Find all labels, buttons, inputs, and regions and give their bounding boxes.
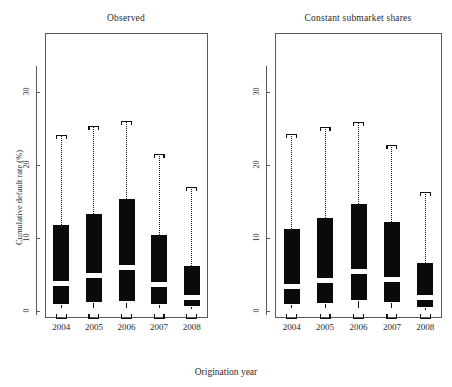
y-tick-label-0-3: 30 [22,85,31,99]
median-0-1 [86,273,102,278]
y-tick-label-0-0: 0 [22,304,31,318]
whisker-cap-upper-leg-0-0-1 [66,135,67,139]
median-1-0 [284,284,300,289]
whisker-cap-upper-leg-1-3-0 [386,145,387,149]
whisker-cap-upper-leg-1-2-1 [363,122,364,126]
whisker-lower-0-0 [61,305,62,308]
median-0-0 [53,281,69,286]
x-tick-label-1-3: 2007 [376,322,408,332]
y-tick-mark-0-1 [36,238,40,239]
whisker-cap-lower-leg-0-3-0 [154,314,155,319]
whisker-cap-upper-leg-1-0-0 [286,134,287,138]
x-tick-label-1-2: 2006 [343,322,375,332]
y-tick-label-1-1: 10 [252,231,261,245]
x-tick-label-0-3: 2007 [143,322,175,332]
whisker-cap-upper-leg-0-4-1 [196,187,197,191]
median-1-1 [317,278,333,283]
y-tick-mark-1-1 [266,238,270,239]
whisker-cap-lower-leg-0-0-1 [66,314,67,319]
x-tick-label-0-1: 2005 [78,322,110,332]
box-0-3 [151,235,167,304]
whisker-cap-lower-leg-0-2-0 [121,314,122,319]
x-tick-label-1-4: 2008 [409,322,441,332]
median-0-3 [151,282,167,287]
whisker-upper-0-4 [191,187,192,267]
whisker-cap-upper-leg-1-0-1 [296,134,297,138]
whisker-cap-lower-leg-1-2-1 [363,314,364,319]
whisker-upper-0-2 [126,121,127,199]
whisker-cap-lower-leg-0-1-1 [98,314,99,319]
whisker-cap-upper-leg-0-1-0 [88,126,89,130]
whisker-cap-lower-leg-1-4-0 [420,314,421,319]
whisker-lower-1-1 [325,304,326,308]
whisker-cap-upper-leg-1-1-0 [320,127,321,131]
x-axis-title: Origination year [166,367,286,377]
y-tick-mark-1-2 [266,165,270,166]
box-1-1 [317,218,333,303]
whisker-upper-0-0 [61,135,62,225]
x-tick-label-1-1: 2005 [309,322,341,332]
whisker-upper-1-0 [291,134,292,229]
box-0-2 [119,199,135,301]
median-1-4 [417,295,433,300]
y-axis-line-0 [36,66,37,315]
whisker-cap-upper-leg-0-2-0 [121,121,122,125]
whisker-cap-lower-leg-1-4-1 [430,314,431,319]
whisker-cap-upper-leg-1-1-1 [329,127,330,131]
whisker-upper-1-4 [425,192,426,263]
whisker-cap-lower-leg-0-2-1 [131,314,132,319]
box-1-0 [284,229,300,304]
y-axis-line-1 [266,66,267,315]
whisker-cap-upper-leg-1-2-0 [353,122,354,126]
whisker-cap-upper-leg-1-4-0 [420,192,421,196]
panel-title-0: Observed [36,13,216,23]
whisker-lower-0-4 [191,307,192,309]
box-1-2 [351,204,367,300]
boxplot-figure: Observed010203020042005200620072008Const… [0,0,452,387]
whisker-upper-1-3 [391,145,392,222]
whisker-cap-lower-leg-0-4-0 [186,314,187,319]
whisker-lower-1-2 [358,301,359,308]
median-1-2 [351,269,367,274]
whisker-cap-lower-leg-0-0-0 [56,314,57,319]
whisker-cap-upper-leg-1-3-1 [396,145,397,149]
box-1-3 [384,222,400,302]
whisker-upper-1-2 [358,122,359,204]
whisker-cap-lower-leg-0-1-0 [88,314,89,319]
whisker-cap-lower-leg-1-0-0 [286,314,287,319]
y-tick-mark-0-0 [36,311,40,312]
x-tick-label-0-4: 2008 [176,322,208,332]
whisker-lower-1-3 [391,303,392,308]
whisker-lower-1-4 [425,308,426,310]
whisker-cap-lower-leg-0-4-1 [196,314,197,319]
y-tick-mark-0-3 [36,92,40,93]
x-tick-label-0-2: 2006 [111,322,143,332]
median-1-3 [384,277,400,282]
whisker-cap-upper-leg-0-1-1 [98,126,99,130]
whisker-cap-upper-leg-0-3-1 [163,154,164,158]
box-0-0 [53,225,69,305]
median-0-4 [184,295,200,300]
median-0-2 [119,265,135,270]
y-axis-title: Cumulative default rate (%) [14,150,24,245]
y-tick-mark-0-2 [36,165,40,166]
whisker-cap-lower-leg-1-0-1 [296,314,297,319]
whisker-cap-lower-leg-1-1-1 [329,314,330,319]
whisker-upper-1-1 [325,127,326,218]
whisker-cap-lower-leg-1-1-0 [320,314,321,319]
whisker-cap-upper-leg-0-4-0 [186,187,187,191]
whisker-cap-upper-leg-1-4-1 [430,192,431,196]
y-tick-label-1-3: 30 [252,85,261,99]
whisker-cap-upper-leg-0-3-0 [154,154,155,158]
y-tick-label-1-0: 0 [252,304,261,318]
whisker-cap-upper-leg-0-2-1 [131,121,132,125]
whisker-cap-lower-leg-1-2-0 [353,314,354,319]
whisker-lower-0-3 [159,305,160,308]
y-tick-label-1-2: 20 [252,158,261,172]
x-tick-label-1-0: 2004 [276,322,308,332]
whisker-cap-lower-leg-0-3-1 [163,314,164,319]
whisker-cap-upper-leg-0-0-0 [56,135,57,139]
whisker-lower-0-1 [93,303,94,308]
whisker-lower-1-0 [291,305,292,308]
whisker-lower-0-2 [126,303,127,308]
